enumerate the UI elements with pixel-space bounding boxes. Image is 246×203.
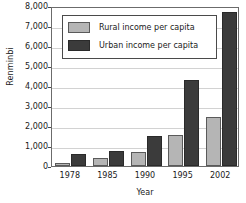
y-tick-label: 6,000 <box>2 43 48 51</box>
bar-rural <box>206 117 221 166</box>
bar-urban <box>184 80 199 166</box>
y-tick-label: 4,000 <box>2 83 48 91</box>
y-tick-label: 2,000 <box>2 123 48 131</box>
y-tick-mark <box>48 167 51 168</box>
legend-label-rural: Rural income per capita <box>99 23 195 32</box>
x-tick-label: 1995 <box>164 171 202 180</box>
chart-figure: Renminbi 01,0002,0003,0004,0005,0006,000… <box>0 0 246 203</box>
y-tick-label: 0 <box>2 163 48 171</box>
x-tick-label: 1985 <box>89 171 127 180</box>
plot-area: Rural income per capita Urban income per… <box>51 7 239 167</box>
bar-rural <box>55 163 70 166</box>
legend-swatch-urban-icon <box>68 40 90 51</box>
bar-urban <box>222 12 237 166</box>
y-tick-label: 8,000 <box>2 3 48 11</box>
legend-item-urban: Urban income per capita <box>68 38 211 53</box>
bar-rural <box>168 135 183 166</box>
x-tick-label: 2002 <box>201 171 239 180</box>
y-tick-label: 5,000 <box>2 63 48 71</box>
y-tick-label: 7,000 <box>2 23 48 31</box>
y-tick-label: 1,000 <box>2 143 48 151</box>
y-tick-label: 3,000 <box>2 103 48 111</box>
bar-urban <box>147 136 162 166</box>
bar-urban <box>109 151 124 166</box>
bar-urban <box>71 154 86 166</box>
legend-item-rural: Rural income per capita <box>68 20 211 35</box>
bar-rural <box>131 152 146 166</box>
x-axis-title: Year <box>51 188 239 197</box>
y-axis-ticks: 01,0002,0003,0004,0005,0006,0007,0008,00… <box>0 0 48 203</box>
legend-label-urban: Urban income per capita <box>99 41 198 50</box>
x-tick-label: 1978 <box>51 171 89 180</box>
chart-legend: Rural income per capita Urban income per… <box>62 15 217 59</box>
bar-rural <box>93 158 108 166</box>
legend-swatch-rural-icon <box>68 22 90 33</box>
x-tick-label: 1990 <box>126 171 164 180</box>
